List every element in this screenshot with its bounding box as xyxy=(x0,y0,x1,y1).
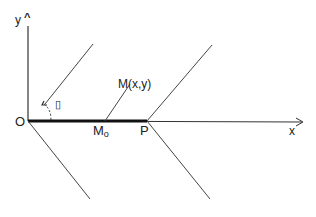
x-axis-label: x xyxy=(289,125,295,137)
y-axis-label: y xyxy=(15,14,21,26)
origin-label: O xyxy=(15,115,25,128)
angle-arc xyxy=(44,104,51,120)
line-p-lower xyxy=(147,121,210,199)
line-o-upper xyxy=(45,44,93,104)
coordinate-diagram xyxy=(0,0,316,217)
point-p-label: P xyxy=(140,124,149,137)
point-m0-subscript: o xyxy=(104,129,109,139)
point-m0-label: Mo xyxy=(93,124,109,139)
line-o-lower xyxy=(28,121,90,199)
line-p-upper xyxy=(147,45,212,121)
angle-label: ▯ xyxy=(55,99,61,110)
point-m0-letter: M xyxy=(93,123,104,138)
y-axis-arrow-icon: ^ xyxy=(24,12,30,23)
point-m-label: M(x,y) xyxy=(118,78,151,90)
